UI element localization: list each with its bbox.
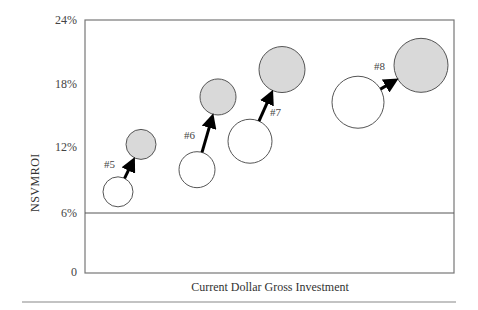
bubble-before-7 [228,119,272,163]
ytick-0: 0 [37,265,77,280]
bubble-after-8 [394,38,448,92]
point-label-8: #8 [374,60,385,72]
ytick-24: 24% [37,13,77,28]
bubble-after-7 [259,47,305,93]
bubble-after-6 [200,79,236,115]
ytick-12: 12% [37,140,77,155]
point-label-7: #7 [270,106,281,118]
y-axis-label: NSVMROI [28,153,43,212]
x-axis-label: Current Dollar Gross Investment [85,280,455,295]
bubble-before-5 [103,177,133,207]
point-label-5: #5 [104,158,115,170]
ytick-18: 18% [37,77,77,92]
arrow-icon-8 [380,82,393,90]
arrow-icon-7 [259,95,271,121]
bubble-after-5 [126,129,156,159]
point-label-6: #6 [184,129,195,141]
chart-canvas [0,0,478,310]
arrow-icon-6 [202,119,212,152]
ytick-6: 6% [37,206,77,221]
bubble-before-8 [332,76,384,128]
bubble-before-6 [179,152,215,188]
arrow-icon-5 [125,162,133,178]
